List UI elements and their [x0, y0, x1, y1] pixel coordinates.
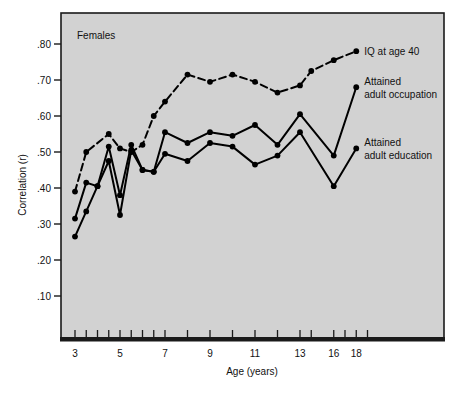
data-point: [331, 57, 337, 63]
data-point: [353, 48, 359, 54]
data-point: [185, 72, 191, 78]
y-axis-tick-label: .20: [37, 255, 51, 266]
data-point: [140, 167, 146, 173]
chart-figure: .80.70.60.50.40.30.20.10 357911131618 IQ…: [0, 0, 469, 394]
y-axis-tick-label: .40: [37, 183, 51, 194]
data-point: [106, 144, 112, 150]
x-axis-title: Age (years): [226, 366, 278, 377]
data-point: [117, 212, 123, 218]
data-point: [308, 68, 314, 74]
y-axis-title: Correlation (r): [17, 154, 28, 216]
series-label-iq-at-age-40: IQ at age 40: [364, 46, 419, 57]
data-point: [83, 209, 89, 215]
data-point: [128, 142, 134, 148]
y-axis-tick-label: .10: [37, 291, 51, 302]
x-axis-baseline: [60, 337, 445, 342]
data-point: [117, 192, 123, 198]
data-point: [95, 183, 101, 189]
data-point: [151, 169, 157, 175]
data-point: [185, 140, 191, 146]
y-axis-tick-label: .60: [37, 111, 51, 122]
x-axis-tick-label: 7: [162, 348, 168, 359]
y-axis-tick-label: .70: [37, 75, 51, 86]
data-point: [297, 83, 303, 89]
data-point: [230, 133, 236, 139]
x-axis-tick-label: 16: [328, 348, 340, 359]
data-point: [230, 72, 236, 78]
data-point: [106, 158, 112, 164]
series-label-attained-adult-education-line2: adult education: [364, 150, 432, 161]
x-axis-tick-label: 18: [351, 348, 363, 359]
data-point: [106, 131, 112, 137]
data-point: [83, 180, 89, 186]
data-point: [252, 79, 258, 85]
data-point: [331, 153, 337, 159]
data-point: [230, 144, 236, 150]
plot-panel: [60, 13, 445, 342]
data-point: [207, 79, 213, 85]
data-point: [353, 146, 359, 152]
data-point: [162, 129, 168, 135]
data-point: [72, 234, 78, 240]
data-point: [72, 189, 78, 195]
x-axis-tick-label: 5: [117, 348, 123, 359]
data-point: [275, 90, 281, 96]
x-axis-tick-label: 11: [250, 348, 261, 359]
data-point: [275, 142, 281, 148]
data-point: [275, 153, 281, 159]
data-point: [207, 129, 213, 135]
data-point: [162, 151, 168, 157]
data-point: [151, 113, 157, 119]
data-point: [117, 146, 123, 152]
data-point: [252, 122, 258, 128]
series-label-attained-adult-occupation: Attained: [364, 76, 401, 87]
correlation-line-chart: .80.70.60.50.40.30.20.10 357911131618 IQ…: [0, 0, 469, 394]
data-point: [72, 216, 78, 222]
data-point: [83, 149, 89, 155]
x-axis-tick-label: 9: [207, 348, 213, 359]
data-point: [128, 147, 134, 153]
data-point: [185, 158, 191, 164]
y-axis-tick-label: .30: [37, 219, 51, 230]
data-point: [252, 162, 258, 168]
data-point: [331, 183, 337, 189]
x-axis-tick-label: 3: [72, 348, 78, 359]
y-axis-tick-label: .80: [37, 39, 51, 50]
series-label-attained-adult-occupation-line2: adult occupation: [364, 89, 437, 100]
data-point: [353, 84, 359, 90]
series-label-attained-adult-education: Attained: [364, 137, 401, 148]
data-point: [207, 140, 213, 146]
data-point: [162, 99, 168, 105]
data-point: [297, 111, 303, 117]
data-point: [140, 142, 146, 148]
data-point: [297, 129, 303, 135]
panel-label: Females: [77, 30, 115, 41]
plot-area-background: [61, 13, 444, 338]
x-axis-tick-label: 13: [294, 348, 306, 359]
y-axis-tick-label: .50: [37, 147, 51, 158]
